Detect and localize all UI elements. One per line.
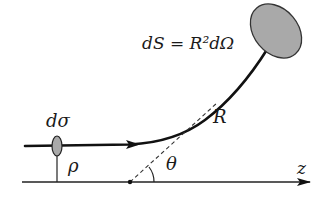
impact-parameter-label: ρ <box>68 157 79 175</box>
z-axis-label: z <box>297 160 306 177</box>
cross-section-ellipse <box>52 136 62 156</box>
theta-angle-arc <box>149 167 154 182</box>
scattering-diagram: dS = R²dΩ dσ ρ θ R z <box>0 0 322 205</box>
scattering-angle-label: θ <box>166 155 177 173</box>
diagram-canvas <box>0 0 322 205</box>
scattering-center-dot <box>128 180 132 184</box>
detector-surface-ellipse <box>240 0 312 68</box>
cross-section-label: dσ <box>46 112 70 130</box>
distance-label: R <box>213 108 227 126</box>
surface-element-label: dS = R²dΩ <box>142 35 234 52</box>
particle-trajectory <box>25 48 268 146</box>
